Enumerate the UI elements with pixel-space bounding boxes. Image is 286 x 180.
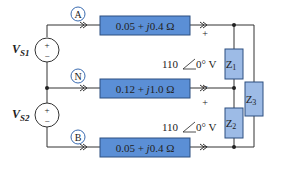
- line-impedance-b: 0.05 + j0.4 Ω: [100, 138, 190, 157]
- svg-text:0.12 + j1.0 Ω: 0.12 + j1.0 Ω: [116, 83, 175, 95]
- svg-text:0.05 + j0.4 Ω: 0.05 + j0.4 Ω: [116, 20, 175, 32]
- svg-text:−: −: [202, 141, 208, 152]
- angle-label: 0° V: [196, 121, 216, 133]
- svg-text:110: 110: [162, 58, 179, 70]
- svg-text:−: −: [202, 81, 208, 92]
- load-z2: Z2: [225, 108, 243, 138]
- svg-text:+: +: [202, 97, 208, 108]
- source-vs1: + − VS1: [12, 38, 59, 62]
- wire-a-left: [47, 25, 100, 37]
- vs1-label: VS1: [12, 42, 30, 58]
- svg-text:+: +: [202, 28, 208, 39]
- angle-label: 0° V: [196, 58, 216, 70]
- source-vs2: + − VS2: [12, 103, 59, 127]
- load-z1: Z1: [225, 49, 243, 79]
- junction-dot: [232, 86, 236, 90]
- minus-sign: −: [44, 116, 49, 126]
- node-b: B: [71, 130, 85, 144]
- svg-text:A: A: [74, 9, 82, 20]
- svg-text:110: 110: [162, 121, 179, 133]
- svg-text:N: N: [74, 71, 81, 82]
- junction-dot: [232, 145, 236, 149]
- junction-dot: [45, 86, 49, 90]
- plus-sign: +: [44, 40, 49, 50]
- node-a: A: [71, 7, 85, 21]
- minus-sign: −: [44, 51, 49, 61]
- vs2-label: VS2: [12, 107, 30, 123]
- circuit-diagram: + − VS1 + − VS2 A N B 0.05 + j0.4 Ω 0.12…: [0, 0, 286, 180]
- svg-text:B: B: [75, 132, 82, 143]
- node-n: N: [71, 69, 85, 83]
- svg-text:0.05 + j0.4 Ω: 0.05 + j0.4 Ω: [116, 142, 175, 154]
- plus-sign: +: [44, 105, 49, 115]
- junction-dot: [232, 23, 236, 27]
- load-z3: Z3: [245, 82, 263, 116]
- line-impedance-a: 0.05 + j0.4 Ω: [100, 16, 190, 35]
- line-impedance-n: 0.12 + j1.0 Ω: [100, 79, 190, 98]
